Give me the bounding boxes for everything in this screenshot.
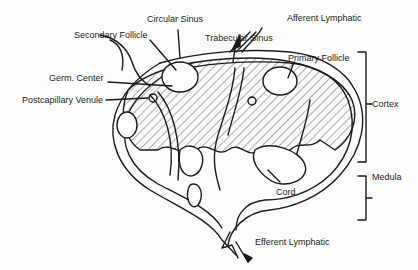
label-primary-follicle: Primary Follicle [288, 53, 350, 63]
label-medula: Medula [372, 172, 402, 182]
label-circular-sinus: Circular Sinus [147, 14, 203, 24]
small-follicle-left [117, 112, 137, 138]
secondary-follicle [162, 62, 198, 92]
label-afferent-lymphatic: Afferent Lymphatic [287, 13, 362, 23]
label-cortex: Cortex [372, 99, 399, 109]
medullary-cord [179, 146, 202, 176]
label-trabecular-sinus: Trabecular Sinus [205, 33, 273, 43]
lymph-node-diagram: Circular Sinus Afferent Lymphatic Second… [0, 0, 418, 270]
label-germ-center: Germ. Center [49, 73, 104, 83]
label-efferent-lymphatic: Efferent Lymphatic [255, 237, 330, 247]
label-secondary-follicle: Secondary Follicle [74, 30, 148, 40]
label-cord: Cord [276, 187, 296, 197]
label-postcapillary-venule: Postcapillary Venule [22, 95, 103, 105]
primary-follicle [263, 67, 297, 95]
